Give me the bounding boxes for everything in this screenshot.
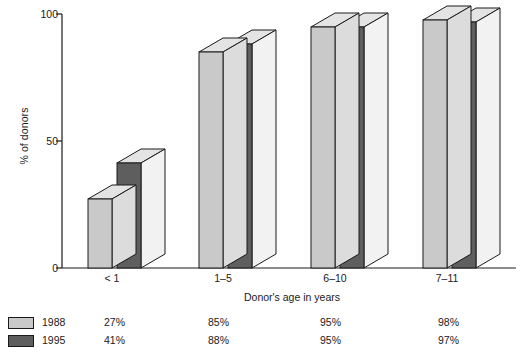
bar-1988-6-10: [311, 13, 359, 268]
x-axis-title: Donor's age in years: [0, 291, 532, 303]
legend-row-1988: 1988 27% 85% 95% 98%: [0, 316, 532, 332]
bar-1988-7-11: [423, 6, 471, 268]
legend-value-1988-6-10: 95%: [320, 316, 380, 328]
x-tick-7-11: 7–11: [407, 272, 487, 284]
x-tick-lt1: < 1: [72, 272, 152, 284]
legend: 1988 27% 85% 95% 98% 1995 41% 88% 95% 97…: [0, 316, 532, 356]
legend-value-1995-7-11: 97%: [438, 334, 498, 346]
x-tick-1-5: 1–5: [183, 272, 263, 284]
y-tick-50: 50: [24, 135, 58, 147]
bar-chart: % of donors 100 50 0 < 1 1–5 6–10 7–11 D…: [0, 0, 532, 362]
legend-label-1995: 1995: [42, 334, 65, 346]
y-tick-100: 100: [24, 8, 58, 20]
x-tick-6-10: 6–10: [295, 272, 375, 284]
legend-value-1988-1-5: 85%: [208, 316, 268, 328]
legend-swatch-1995: [8, 335, 34, 347]
bar-1988-lt1: [88, 185, 136, 268]
plot-area: [0, 0, 532, 362]
legend-value-1988-lt1: 27%: [104, 316, 164, 328]
legend-value-1995-1-5: 88%: [208, 334, 268, 346]
legend-value-1988-7-11: 98%: [438, 316, 498, 328]
bar-1988-1-5: [199, 38, 247, 268]
legend-row-1995: 1995 41% 88% 95% 97%: [0, 334, 532, 350]
x-axis-title-text: Donor's age in years: [244, 291, 340, 303]
legend-value-1995-6-10: 95%: [320, 334, 380, 346]
legend-label-1988: 1988: [42, 316, 65, 328]
legend-value-1995-lt1: 41%: [104, 334, 164, 346]
y-tick-0: 0: [24, 262, 58, 274]
legend-swatch-1988: [8, 317, 34, 329]
